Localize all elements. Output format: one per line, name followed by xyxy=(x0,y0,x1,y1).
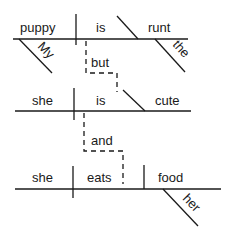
verb-word-1: is xyxy=(96,20,106,35)
conjunction-word-and: and xyxy=(91,133,113,148)
verb-word-2: is xyxy=(96,93,106,108)
clause-3: she eats food her xyxy=(15,165,221,226)
complement-word-2: cute xyxy=(155,93,180,108)
conjunction-word-but: but xyxy=(91,55,109,70)
complement-slant-1 xyxy=(117,16,138,39)
subject-word-2: she xyxy=(32,93,53,108)
complement-slant-2 xyxy=(123,90,145,111)
clause-2: she is cute xyxy=(15,88,191,120)
object-word-3: food xyxy=(158,170,183,185)
modifier-word-the: the xyxy=(170,37,193,60)
complement-word-1: runt xyxy=(148,20,171,35)
sentence-diagram: puppy is runt My the but she is cute and… xyxy=(0,0,228,249)
subject-word-3: she xyxy=(32,170,53,185)
conjunction-but: but xyxy=(86,41,117,92)
verb-word-3: eats xyxy=(87,170,112,185)
subject-word-1: puppy xyxy=(20,20,56,35)
